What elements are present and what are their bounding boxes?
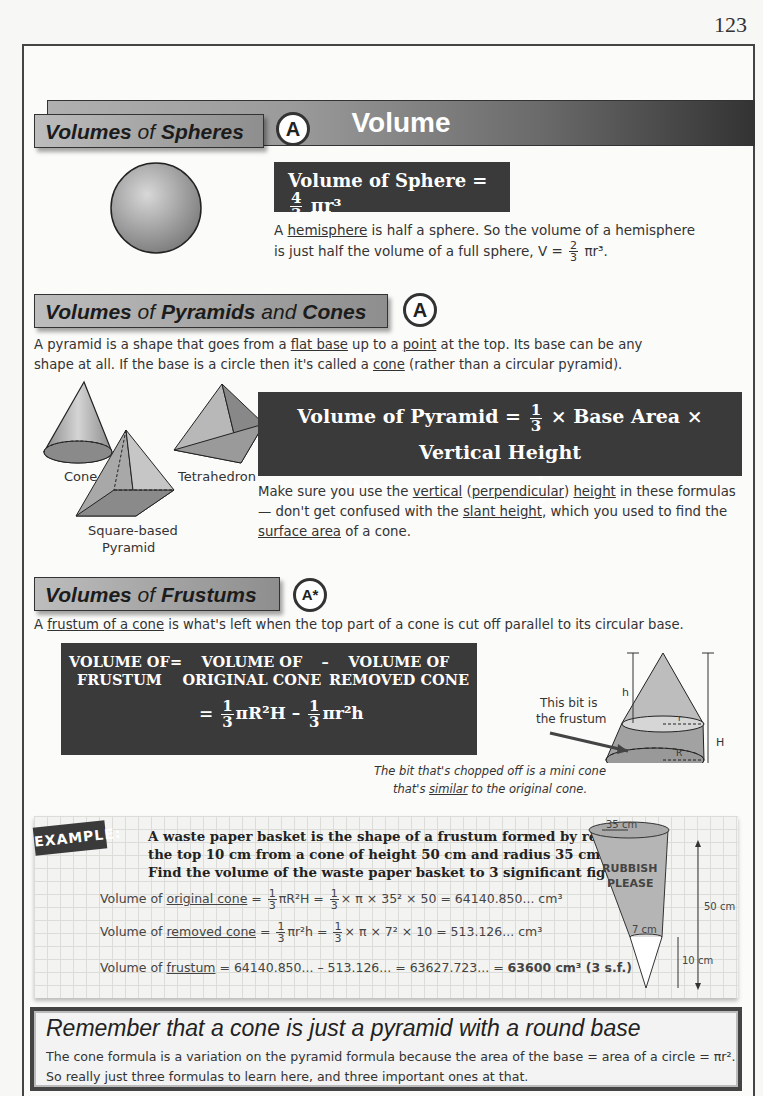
text: πR²H =	[279, 891, 328, 906]
operator: –	[322, 653, 329, 689]
formula-text: πr²h	[322, 703, 363, 723]
cone-icon	[44, 382, 112, 463]
fraction: 13	[221, 699, 233, 730]
key-term: original cone	[167, 891, 248, 906]
formula-text: Volume of Sphere =	[288, 170, 487, 191]
frustum-diagram: h H r R This bit is the frustum	[500, 648, 740, 763]
text: A pyramid is a shape that goes from a	[34, 337, 291, 352]
svg-text:50 cm: 50 cm	[704, 901, 735, 912]
example-question: A waste paper basket is the shape of a f…	[148, 828, 652, 882]
term-original-cone: VOLUME OFORIGINAL CONE	[182, 653, 321, 689]
text: (rather than a circular pyramid).	[405, 357, 622, 372]
fraction: 13	[268, 888, 277, 911]
svg-text:Square-based: Square-based	[88, 523, 178, 538]
text: , which you used to find the	[542, 504, 727, 519]
text: is half a sphere. So the volume of a hem…	[367, 222, 695, 238]
similar-cone-caption: The bit that's chopped off is a mini con…	[360, 762, 620, 798]
sphere-formula-box: Volume of Sphere = 43 πr³	[274, 162, 510, 212]
fraction: 13	[530, 403, 542, 434]
operator: –	[292, 703, 301, 723]
frustum-symbolic-formula: = 13πR²H – 13πr²h	[199, 699, 469, 730]
svg-text:10 cm: 10 cm	[682, 955, 713, 966]
key-term: removed cone	[167, 924, 257, 939]
svg-text:the frustum: the frustum	[536, 712, 607, 726]
text: to the original cone.	[468, 782, 587, 796]
text: VOLUME OF	[329, 653, 469, 671]
vertical-height-note: Make sure you use the vertical (perpendi…	[258, 482, 744, 542]
denominator: 3	[334, 933, 341, 944]
fraction: 23	[569, 240, 578, 263]
heading-word: of	[138, 120, 156, 143]
formula-text: πR²H	[236, 703, 286, 723]
denominator: 3	[277, 933, 284, 944]
svg-text:PLEASE: PLEASE	[607, 877, 654, 890]
heading-word: Volumes	[45, 583, 132, 606]
svg-text:RUBBISH: RUBBISH	[602, 862, 657, 875]
text: Make sure you use the	[258, 484, 413, 499]
fraction: 13	[276, 921, 285, 944]
operator: =	[170, 653, 182, 689]
svg-text:h: h	[622, 686, 629, 699]
pyramid-formula: Volume of Pyramid = 13 × Base Area × Ver…	[268, 398, 732, 470]
denominator: 3	[570, 252, 577, 263]
heading-word: Frustums	[161, 583, 257, 606]
key-term: perpendicular	[472, 484, 564, 499]
text: × π × 35² × 50 = 64140.850... cm³	[341, 891, 563, 906]
svg-text:7 cm: 7 cm	[632, 924, 657, 935]
svg-text:This bit is: This bit is	[539, 696, 597, 710]
text: A	[34, 617, 47, 632]
calc-frustum: Volume of frustum = 64140.850... – 513.1…	[100, 960, 632, 975]
page-number: 123	[714, 12, 747, 38]
hemisphere-text: A hemisphere is half a sphere. So the vo…	[274, 220, 714, 263]
grade-badge-icon: A	[276, 112, 310, 146]
question-line: Find the volume of the waste paper baske…	[148, 864, 652, 882]
text: πr²h =	[287, 924, 331, 939]
heading-word: Cones	[302, 300, 366, 323]
text: ORIGINAL CONE	[182, 671, 321, 689]
text: The bit that's chopped off is a mini con…	[374, 764, 606, 778]
text: of a cone.	[341, 524, 411, 539]
fraction: 13	[330, 888, 339, 911]
fraction: 13	[333, 921, 342, 944]
heading-word: of	[138, 300, 156, 323]
key-term: vertical	[413, 484, 463, 499]
text: that's	[393, 782, 429, 796]
heading-word: Spheres	[161, 120, 244, 143]
svg-text:R: R	[676, 748, 682, 758]
section-heading-pyramids-cones: Volumes of Pyramids and Cones	[34, 294, 388, 328]
key-term: hemisphere	[288, 222, 368, 238]
term-frustum: VOLUME OFFRUSTUM	[69, 653, 170, 689]
fraction: 43	[290, 191, 302, 222]
svg-text:Cone: Cone	[64, 469, 97, 484]
svg-text:H: H	[716, 736, 724, 749]
heading-word: Volumes	[45, 300, 132, 323]
frustum-word-equation: VOLUME OFFRUSTUM = VOLUME OFORIGINAL CON…	[69, 653, 469, 689]
calc-original-cone: Volume of original cone = 13πR²H = 13× π…	[100, 888, 562, 911]
key-term: cone	[373, 357, 405, 372]
text: shape at all. If the base is a circle th…	[34, 357, 373, 372]
term-removed-cone: VOLUME OFREMOVED CONE	[329, 653, 469, 689]
key-term: flat base	[291, 337, 348, 352]
pyramid-shapes-diagram: Cone Tetrahedron Square-based Pyramid	[26, 378, 266, 558]
text: in these formulas	[616, 484, 736, 499]
text: =	[256, 924, 274, 939]
key-term: frustum	[167, 960, 216, 975]
calc-removed-cone: Volume of removed cone = 13πr²h = 13× π …	[100, 921, 542, 944]
text: Volume of	[100, 891, 167, 906]
denominator: 3	[331, 900, 338, 911]
frustum-intro-text: A frustum of a cone is what's left when …	[34, 615, 746, 635]
heading-word: of	[138, 583, 156, 606]
text: A	[274, 222, 288, 238]
formula-text: Volume of Pyramid =	[297, 405, 521, 427]
svg-text:Pyramid: Pyramid	[102, 540, 155, 555]
text: Volume of	[100, 960, 167, 975]
grade-badge-icon: A	[403, 293, 437, 327]
heading-word: and	[261, 300, 296, 323]
formula-text: πr³	[311, 195, 342, 216]
text: VOLUME OF	[182, 653, 321, 671]
sphere-icon	[108, 160, 204, 256]
text: is just half the volume of a full sphere…	[274, 243, 563, 259]
key-term: similar	[429, 782, 468, 796]
question-line: A waste paper basket is the shape of a f…	[148, 828, 652, 846]
fraction: 13	[308, 699, 320, 730]
